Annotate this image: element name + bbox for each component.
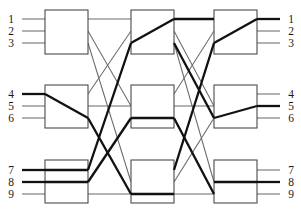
link-s2a-s3b: [174, 31, 214, 106]
input-label-5: 5: [8, 100, 14, 112]
output-label-9: 9: [288, 188, 294, 200]
output-label-8: 8: [288, 176, 294, 188]
input-label-1: 1: [8, 13, 14, 25]
input-port-group-top: 1 2 3: [8, 13, 45, 49]
stage2-switch-b[interactable]: [131, 85, 174, 128]
output-label-1: 1: [288, 13, 294, 25]
input-label-2: 2: [8, 25, 14, 37]
network-svg: 1 2 3 4 5 6 7 8 9: [0, 0, 301, 213]
input-label-6: 6: [8, 112, 14, 124]
input-label-7: 7: [8, 164, 14, 176]
stage1-switch-a[interactable]: [45, 10, 88, 54]
input-label-4: 4: [8, 88, 14, 100]
input-label-3: 3: [8, 37, 14, 49]
output-label-6: 6: [288, 112, 294, 124]
output-label-7: 7: [288, 164, 294, 176]
stage3-switch-b[interactable]: [214, 85, 257, 128]
path-8-8-seg-link2: [174, 118, 214, 194]
output-label-2: 2: [288, 25, 294, 37]
input-label-8: 8: [8, 176, 14, 188]
output-label-4: 4: [288, 88, 294, 100]
stage2-switch-c[interactable]: [131, 160, 174, 203]
link-s1a-s2b: [88, 31, 131, 106]
output-label-3: 3: [288, 37, 294, 49]
switching-network-diagram: 1 2 3 4 5 6 7 8 9: [0, 0, 301, 213]
output-label-5: 5: [288, 100, 294, 112]
input-label-9: 9: [8, 188, 14, 200]
